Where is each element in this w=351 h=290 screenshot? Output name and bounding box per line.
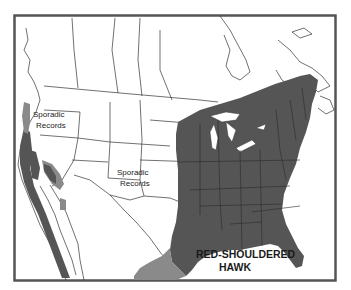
- map-title-line1: RED-SHOULDERED: [196, 248, 296, 260]
- annotation-sporadic-west-1: Sporadic: [33, 110, 65, 119]
- arizona-range: [60, 198, 66, 210]
- range-map: Sporadic Records Sporadic Records RED-SH…: [0, 0, 351, 290]
- annotation-sporadic-plains-2: Records: [120, 179, 150, 188]
- annotation-sporadic-west-2: Records: [36, 121, 66, 130]
- map-title-line2: HAWK: [219, 261, 251, 273]
- annotation-sporadic-plains-1: Sporadic: [117, 168, 149, 177]
